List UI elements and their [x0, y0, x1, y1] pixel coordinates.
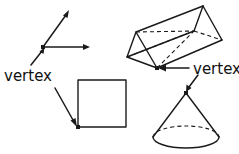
prism-top-ridge-edge: [136, 6, 203, 32]
arrow-to-square-vertex-head: [71, 118, 78, 127]
angle-ray-horizontal-arrowhead: [83, 44, 90, 50]
label-vertex-left: vertex: [4, 67, 52, 85]
square-outline: [78, 80, 126, 127]
prism-hidden-diagonal-lower: [157, 31, 194, 68]
prism-back-left-edge: [194, 6, 203, 31]
cone-right-slant-edge: [186, 93, 219, 137]
angle-vertex-dot: [41, 45, 45, 49]
cone-base-front-arc: [153, 137, 219, 148]
arrow-to-square-vertex-line: [55, 88, 73, 120]
label-vertex-right: vertex: [193, 60, 239, 78]
arrow-to-angle-vertex-line: [31, 51, 42, 65]
vertex-diagram-figure: vertex vertex: [0, 0, 239, 154]
prism-front-triangle: [127, 32, 157, 68]
square-shape: [76, 80, 126, 129]
angle-ray-upper: [43, 15, 66, 47]
pointer-arrows: [31, 48, 198, 128]
prism-back-right-edge: [203, 6, 222, 40]
diagram-canvas: vertex vertex: [0, 0, 239, 154]
angle-shape: [41, 10, 90, 50]
cone-left-slant-edge: [153, 93, 186, 137]
cone-base-back-arc: [153, 126, 219, 137]
cone-apex-dot: [184, 91, 188, 95]
cone-shape: [153, 91, 219, 148]
prism-hidden-diagonal-upper: [136, 31, 194, 32]
